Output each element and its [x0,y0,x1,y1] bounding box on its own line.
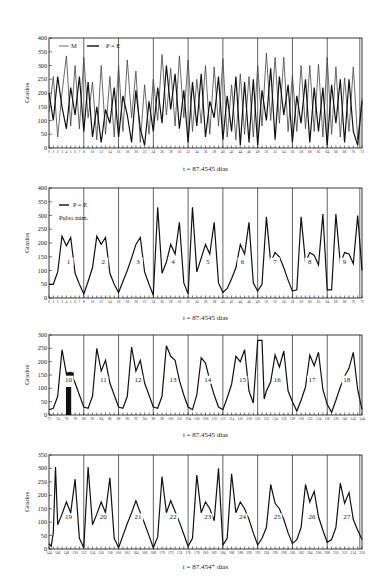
x-tick-label: 62 [317,300,321,304]
y-tick-label: 350 [38,48,47,55]
pulse-number-annotation: Pulso núm. [59,214,89,221]
x-tick-label: 18 [125,300,129,304]
x-tick-label: 36 [204,300,208,304]
x-tick-label: 20 [134,150,138,154]
pulse-number: 20 [100,513,108,521]
x-tick-label: 106 [194,417,200,421]
x-tick-label: 86 [108,417,112,421]
y-axis-title: Grados [23,233,31,253]
x-tick-label: 46 [247,300,251,304]
x-tick-label: 3 [61,300,63,304]
x-tick-label: 90 [125,417,129,421]
y-tick-label: 100 [38,117,47,124]
x-tick-label: 124 [272,417,278,421]
x-tick-label: 188 [238,551,244,555]
x-tick-label: 52 [273,300,277,304]
chart-panel-4: 0501001502002503003501441461481501521541… [23,451,365,571]
y-tick-label: 300 [38,212,47,219]
chart-caption: t = 87.454⁺ días [183,563,229,571]
x-tick-label: 136 [325,417,331,421]
x-tick-label: 96 [152,417,156,421]
x-tick-label: 82 [91,417,95,421]
pulse-number: 27 [343,513,351,521]
pulse-number: 21 [135,513,143,521]
x-tick-label: 202 [298,551,304,555]
x-tick-label: 52 [273,150,277,154]
x-tick-label: 68 [343,300,347,304]
pulse-number: 5 [206,258,210,266]
chart-caption: t = 87.4545 días [183,314,228,322]
pulse-number: 8 [308,258,312,266]
x-tick-label: 100 [168,417,174,421]
x-tick-label: 68 [343,150,347,154]
x-tick-label: 98 [160,417,164,421]
x-tick-label: 6 [74,150,76,154]
x-tick-label: 158 [107,551,113,555]
x-tick-label: 1 [52,300,54,304]
x-tick-label: 7 [79,150,81,154]
x-tick-label: 70 [352,300,356,304]
x-tick-label: 112 [220,417,225,421]
pulse-number: 23 [204,513,212,521]
x-tick-label: 118 [246,417,251,421]
x-tick-label: 162 [125,551,131,555]
x-tick-label: 216 [359,551,365,555]
x-tick-label: 26 [160,300,164,304]
x-tick-label: 150 [72,551,78,555]
pulse-number: 13 [169,376,177,384]
x-tick-label: 30 [178,300,182,304]
x-tick-label: 48 [256,300,260,304]
x-tick-label: 42 [230,150,234,154]
x-tick-label: 34 [195,150,199,154]
x-tick-label: 184 [220,551,226,555]
x-tick-label: 152 [81,551,87,555]
y-tick-label: 50 [41,130,47,137]
x-tick-label: 190 [246,551,252,555]
y-tick-label: 350 [38,198,47,205]
x-tick-label: 168 [151,551,157,555]
y-tick-label: 400 [38,184,47,191]
x-tick-label: 72 [360,150,364,154]
pulse-number: 2 [102,258,106,266]
x-tick-label: 38 [212,150,216,154]
y-tick-label: 50 [41,280,47,287]
x-tick-label: 134 [316,417,322,421]
x-tick-label: 1 [52,150,54,154]
x-tick-label: 126 [281,417,287,421]
x-tick-label: 50 [265,150,269,154]
y-tick-label: 50 [41,532,47,539]
x-tick-label: 66 [334,300,338,304]
x-tick-label: 138 [333,417,339,421]
y-tick-label: 300 [38,464,47,471]
y-tick-label: 50 [41,398,47,405]
y-tick-label: 300 [38,62,47,69]
x-tick-label: 178 [194,551,200,555]
x-tick-label: 78 [73,417,77,421]
y-tick-label: 300 [38,331,47,338]
y-axis-title: Grados [23,83,31,103]
x-tick-label: 28 [169,300,173,304]
x-tick-label: 58 [299,150,303,154]
x-tick-label: 192 [255,551,261,555]
x-tick-label: 16 [117,300,121,304]
x-tick-label: 140 [342,417,348,421]
x-tick-label: 170 [159,551,165,555]
y-tick-label: 150 [38,371,47,378]
x-tick-label: 186 [229,551,235,555]
x-tick-label: 7 [79,300,81,304]
x-tick-label: 8 [83,150,85,154]
x-tick-label: 144 [46,551,52,555]
x-tick-label: 0 [48,150,50,154]
x-tick-label: 22 [143,300,147,304]
x-tick-label: 14 [108,150,112,154]
x-tick-label: 210 [333,551,339,555]
x-tick-label: 46 [247,150,251,154]
x-tick-label: 172 [168,551,174,555]
x-tick-label: 116 [238,417,243,421]
x-tick-label: 142 [351,417,357,421]
x-tick-label: 5 [70,150,72,154]
pulse-number: 26 [309,513,317,521]
x-tick-label: 144 [359,417,365,421]
x-tick-label: 60 [308,300,312,304]
x-tick-label: 70 [352,150,356,154]
